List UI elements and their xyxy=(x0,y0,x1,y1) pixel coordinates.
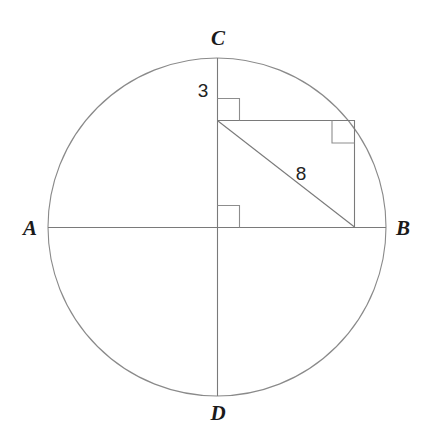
label-point-a: A xyxy=(23,218,37,239)
label-point-b: B xyxy=(396,218,410,239)
right-angle-top-left-icon xyxy=(218,99,240,121)
label-point-c: C xyxy=(211,28,225,49)
label-segment-top: 3 xyxy=(198,81,209,100)
hypotenuse-line xyxy=(218,121,355,227)
label-segment-diagonal: 8 xyxy=(296,164,307,183)
right-angle-center-icon xyxy=(218,206,240,228)
geometry-figure: C A B D 3 8 xyxy=(0,0,429,435)
label-point-d: D xyxy=(210,403,225,424)
geometry-canvas xyxy=(0,0,429,435)
